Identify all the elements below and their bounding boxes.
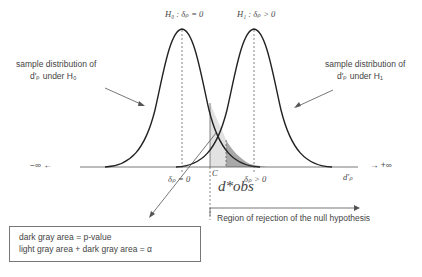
critical-value-label: C [212,168,218,178]
legend-p-value: dark gray area = p-value [19,232,111,242]
rejection-region-label: Region of rejection of the null hypothes… [217,213,370,223]
dark-gray-area [226,140,268,167]
h1-distribution-label-line2: d′ₚ under H₁ [337,71,383,81]
h0-distribution-label-line1: sample distribution of [16,59,96,69]
h0-tick-label: δₚ = 0 [168,174,190,184]
negative-infinity-label: −∞ ← [30,160,52,170]
positive-infinity-label: → +∞ [370,160,392,170]
legend-alpha: light gray area + dark gray area = α [19,244,152,254]
h0-distribution-label-line2: d′ₚ under H₀ [30,71,76,81]
observed-statistic-label: d*obs [218,178,254,195]
h1-hypothesis-label: H₁ : δₚ > 0 [237,9,275,19]
legend-box: dark gray area = p-value light gray area… [9,226,201,262]
h0-hypothesis-label: H₀ : δₚ = 0 [165,9,203,19]
axis-variable-label: d′ₚ [343,172,353,182]
h1-distribution-label-line1: sample distribution of [325,59,405,69]
